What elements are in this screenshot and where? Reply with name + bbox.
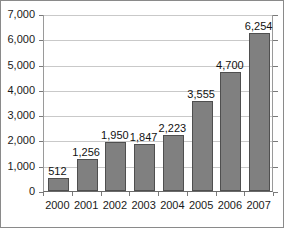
y-axis-tick-right [273, 116, 278, 117]
x-axis-tick [187, 192, 188, 196]
bar-value-label: 1,847 [124, 132, 164, 143]
x-axis-label-2006: 2006 [216, 199, 245, 211]
gridline [44, 40, 272, 41]
bar [220, 72, 241, 191]
bar-value-label: 1,256 [66, 147, 106, 158]
y-axis-tick-label: 4,000 [0, 85, 35, 96]
x-axis-tick [273, 192, 274, 196]
bar [134, 144, 155, 191]
bar-chart-figure: 01,0002,0003,0004,0005,0006,0007,000 512… [0, 0, 284, 228]
y-axis-tick-label: 6,000 [0, 34, 35, 45]
x-axis-tick [129, 192, 130, 196]
y-axis-tick-right [273, 141, 278, 142]
gridline [44, 15, 272, 16]
x-axis-tick [101, 192, 102, 196]
y-axis-tick-label: 5,000 [0, 60, 35, 71]
bar [163, 135, 184, 191]
x-axis-tick [43, 192, 44, 196]
plot-area [43, 15, 273, 192]
x-axis-label-2002: 2002 [101, 199, 130, 211]
x-axis-tick [244, 192, 245, 196]
bar-value-label: 2,223 [152, 123, 192, 134]
x-axis-label-2000: 2000 [43, 199, 72, 211]
x-axis-tick [72, 192, 73, 196]
x-axis-label-2005: 2005 [187, 199, 216, 211]
y-axis-tick-label: 3,000 [0, 110, 35, 121]
y-axis-tick-label: 7,000 [0, 9, 35, 20]
bar [105, 142, 126, 191]
bar-value-label: 512 [37, 166, 77, 177]
y-axis-tick-right [273, 66, 278, 67]
bar [77, 159, 98, 191]
bar [249, 33, 270, 191]
x-axis-label-2001: 2001 [72, 199, 101, 211]
y-axis-tick-right [273, 40, 278, 41]
y-axis-tick-label: 0 [0, 186, 35, 197]
x-axis-tick [216, 192, 217, 196]
bar-value-label: 3,555 [181, 89, 221, 100]
y-axis-tick-label: 1,000 [0, 161, 35, 172]
bar [48, 178, 69, 191]
x-axis-label-2003: 2003 [129, 199, 158, 211]
x-axis-tick [158, 192, 159, 196]
y-axis-tick-right [273, 167, 278, 168]
bar-value-label: 6,254 [239, 21, 279, 32]
y-axis-tick-right [273, 15, 278, 16]
bar [192, 101, 213, 191]
bar-value-label: 4,700 [210, 60, 250, 71]
y-axis-tick-right [273, 91, 278, 92]
x-axis-label-2004: 2004 [158, 199, 187, 211]
y-axis-tick-label: 2,000 [0, 135, 35, 146]
x-axis-label-2007: 2007 [244, 199, 273, 211]
